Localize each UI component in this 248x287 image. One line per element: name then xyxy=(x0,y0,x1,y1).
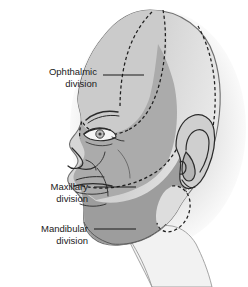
label-mandibular-line1: Mandibular xyxy=(41,223,88,234)
label-mandibular-line2: division xyxy=(56,235,88,246)
label-ophthalmic-line2: division xyxy=(65,78,97,89)
label-maxillary-line1: Maxillary xyxy=(51,181,89,192)
pupil xyxy=(98,132,101,135)
trigeminal-nerve-divisions-figure: Ophthalmic division Maxillary division M… xyxy=(0,0,248,287)
label-ophthalmic-line1: Ophthalmic xyxy=(49,66,97,77)
label-maxillary-line2: division xyxy=(56,193,88,204)
